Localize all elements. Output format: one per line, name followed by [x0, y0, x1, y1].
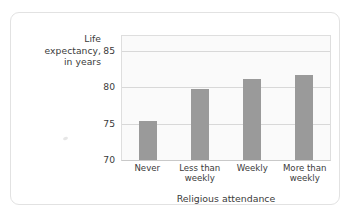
x-axis-label-never: Never	[123, 163, 171, 184]
bar-more-than-weekly[interactable]	[295, 75, 313, 160]
x-axis-label-less-than-weekly-line-2: weekly	[176, 173, 224, 183]
x-axis-label-more-than-weekly-line-2: weekly	[281, 173, 329, 183]
bar-never[interactable]	[139, 121, 157, 160]
x-axis-label-weekly-line-1: Weekly	[228, 163, 276, 173]
x-axis-label-weekly: Weekly	[228, 163, 276, 184]
x-axis-label-more-than-weekly-line-1: More than	[281, 163, 329, 173]
x-axis-label-more-than-weekly: More than weekly	[281, 163, 329, 184]
x-axis-title: Religious attendance	[121, 193, 331, 204]
y-axis-tick-label-75: 75	[95, 119, 115, 128]
y-axis-title-line-2: expectancy,	[17, 45, 101, 57]
y-axis-title-line-3: in years	[17, 56, 101, 68]
bar-series	[122, 36, 330, 160]
x-axis-label-less-than-weekly-line-1: Less than	[176, 163, 224, 173]
y-axis-title-line-1: Life	[17, 33, 101, 45]
x-axis-category-labels: Never Less than weekly Weekly More than …	[121, 163, 331, 184]
figure-card: Life expectancy, in years 85 80 75 70 Ne…	[10, 12, 340, 205]
x-axis-label-less-than-weekly: Less than weekly	[176, 163, 224, 184]
y-axis-tick-label-85: 85	[95, 46, 115, 55]
bar-weekly[interactable]	[243, 79, 261, 160]
bar-less-than-weekly[interactable]	[191, 89, 209, 160]
plot-area	[121, 35, 331, 161]
y-axis-tick-label-80: 80	[95, 82, 115, 91]
y-axis-title: Life expectancy, in years	[17, 33, 101, 68]
x-axis-label-never-line-1: Never	[123, 163, 171, 173]
image-artifact-speck	[63, 136, 69, 141]
y-axis-tick-label-70: 70	[95, 155, 115, 164]
